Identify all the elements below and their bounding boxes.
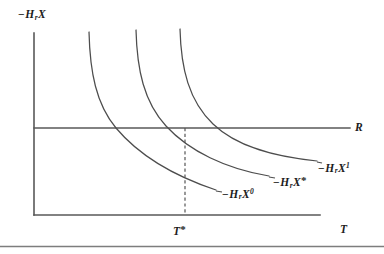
curve-hr-x0 [89,32,216,190]
curve-label-hr-x1-x: X [338,162,346,174]
r-line-label: R [355,121,363,133]
figure-root: −HrX R −HrX1 −HrX* −HrX0 T* T [0,0,384,254]
curve-label-hr-x0-superscript: 0 [250,187,254,196]
curve-hr-x1 [180,29,317,161]
curve-label-hr-x0-h: H [229,188,238,200]
x-axis-label: T [340,223,347,235]
curve-label-hr-xstar-asterisk: * [301,174,307,186]
curve-label-hr-x1: −HrX1 [318,161,350,175]
y-axis-label-x: X [38,8,46,20]
curve-label-hr-xstar-h: H [280,176,289,188]
figure-canvas [0,0,384,254]
curve-label-hr-x0-x: X [242,188,250,200]
curve-label-hr-xstar: −HrX* [273,174,307,190]
curve-hr-xstar [136,30,269,176]
t-star-tick-label: T* [173,223,186,237]
y-axis-label: −HrX [18,8,46,22]
curve-label-hr-x1-h: H [325,162,334,174]
y-axis-label-h: H [25,8,34,20]
t-star-tick-label-asterisk: * [180,223,186,235]
curve-label-hr-x1-superscript: 1 [346,161,350,170]
curve-label-hr-x0: −HrX0 [222,187,254,201]
curve-label-hr-xstar-x: X [293,176,301,188]
